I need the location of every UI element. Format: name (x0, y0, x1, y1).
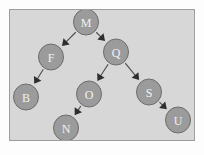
tree-node-o[interactable]: O (77, 81, 102, 107)
arrowhead-o-n-icon (75, 107, 82, 115)
tree-node-s[interactable]: S (137, 79, 162, 105)
node-label-b: B (22, 91, 30, 105)
arrowhead-q-o-icon (97, 73, 104, 81)
tree-node-n[interactable]: N (54, 115, 79, 140)
tree-node-u[interactable]: U (166, 107, 191, 133)
tree-graph: MFQBOSNU (10, 10, 194, 140)
tree-node-m[interactable]: M (74, 10, 99, 35)
tree-node-q[interactable]: Q (104, 39, 129, 65)
edge-f-b (37, 69, 43, 79)
node-label-u: U (174, 114, 183, 128)
edge-q-o (100, 64, 108, 76)
node-label-q: Q (112, 46, 121, 60)
tree-node-f[interactable]: F (39, 44, 64, 70)
tree-node-b[interactable]: B (14, 84, 39, 110)
edge-m-f (66, 32, 76, 42)
arrowhead-f-b-icon (34, 76, 41, 84)
node-label-s: S (146, 86, 153, 100)
edge-m-q (96, 32, 101, 37)
arrowhead-q-s-icon (132, 72, 140, 80)
node-label-o: O (85, 88, 94, 102)
tree-diagram-panel: MFQBOSNU (9, 9, 195, 141)
node-label-m: M (81, 16, 92, 30)
edge-q-s (125, 63, 135, 76)
node-label-n: N (62, 122, 71, 136)
figure-root: MFQBOSNU (0, 0, 204, 155)
node-label-f: F (48, 51, 55, 65)
